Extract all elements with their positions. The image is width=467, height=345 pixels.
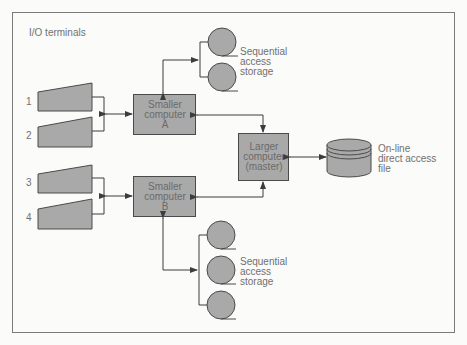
top-reel-2 [208,63,238,91]
top-storage-bracket [200,42,208,77]
bottom-storage-label: Sequential access storage [240,257,287,287]
bottom-reel-2 [207,256,236,284]
terminal-label-4: 4 [26,213,32,223]
terminal-bracket-b [92,178,104,214]
link-b-bottom-storage [163,218,197,270]
smaller-computer-a-label: Smaller computer A [134,100,196,130]
diagram-title: I/O terminals [29,28,86,38]
terminal-3 [38,165,92,193]
link-a-larger [197,115,263,132]
terminal-1 [38,83,92,111]
terminal-bracket-a [92,97,104,131]
bottom-reel-1 [207,221,236,249]
smaller-computer-b-label: Smaller computer B [134,182,196,212]
terminal-label-3: 3 [26,178,32,188]
direct-access-disk-icon [327,139,371,177]
top-storage-label: Sequential access storage [240,47,287,77]
top-reel-1 [208,28,238,56]
link-a-top-storage [163,60,198,93]
terminal-label-2: 2 [26,131,32,141]
terminal-4 [38,199,92,229]
link-b-larger [197,182,263,197]
direct-access-label: On-line direct access file [378,144,436,174]
terminal-label-1: 1 [26,97,32,107]
larger-computer-label: Larger computer (master) [239,142,289,172]
bottom-reel-3 [207,291,236,319]
terminal-2 [38,117,92,147]
